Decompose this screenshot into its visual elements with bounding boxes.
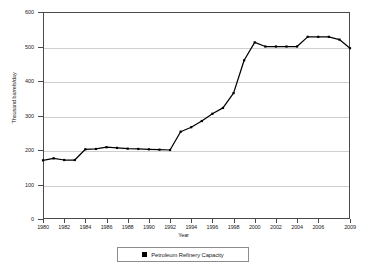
x-axis-tick [149,219,150,223]
x-axis-tick-label: 2004 [291,224,303,231]
x-axis-tick-label: 1992 [164,224,176,231]
gridline [44,48,349,49]
x-axis-tick-label: 1980 [37,224,49,231]
y-axis-tick [38,81,43,82]
x-axis-tick [85,219,86,223]
y-axis-tick-label: 600 [25,9,34,15]
plot-area [43,12,350,219]
y-axis-tick-label: 400 [25,78,34,84]
x-axis-tick [212,219,213,223]
x-axis-tick-label: 2002 [270,224,282,231]
x-axis-tick [350,219,351,223]
y-axis-tick [38,185,43,186]
gridline [44,82,349,83]
x-axis-tick [107,219,108,223]
x-axis-tick [318,219,319,223]
y-axis-tick [38,116,43,117]
legend-label: Petroleum Refinery Capacity [151,252,223,258]
x-axis-tick-label: 2006 [312,224,324,231]
y-axis-tick-label: 300 [25,113,34,119]
x-axis-tick [234,219,235,223]
y-axis-tick-label: 200 [25,147,34,153]
chart-container: 0100200300400500600 Thousand barrels/day… [0,0,367,274]
x-axis-tick [43,219,44,223]
y-axis-tick [38,150,43,151]
y-axis-tick [38,12,43,13]
x-axis-tick-label: 2009 [344,224,356,231]
legend: Petroleum Refinery Capacity [117,247,249,262]
x-axis-tick-label: 1988 [122,224,134,231]
y-axis-tick-label: 100 [25,182,34,188]
y-axis-title: Thousand barrels/day [11,53,17,143]
x-axis-title: Year [0,232,367,238]
x-axis-tick-label: 1998 [228,224,240,231]
x-axis-tick-label: 2000 [249,224,261,231]
legend-swatch-icon [142,252,147,257]
x-axis-tick [255,219,256,223]
x-axis-tick [191,219,192,223]
x-axis-tick [64,219,65,223]
y-axis-tick-label: 500 [25,44,34,50]
gridline [44,151,349,152]
y-axis-line [43,12,44,219]
x-axis-tick-label: 1994 [185,224,197,231]
x-axis-tick [170,219,171,223]
x-axis-tick-label: 1986 [101,224,113,231]
gridline [44,186,349,187]
x-axis-tick [297,219,298,223]
x-axis-tick-label: 1982 [58,224,70,231]
gridline [44,117,349,118]
x-axis-tick-label: 1996 [207,224,219,231]
x-axis-tick [128,219,129,223]
x-axis-tick-label: 1990 [143,224,155,231]
x-axis-tick [276,219,277,223]
y-axis-tick-label: 0 [31,216,34,222]
x-axis-tick-label: 1984 [80,224,92,231]
y-axis-tick [38,47,43,48]
